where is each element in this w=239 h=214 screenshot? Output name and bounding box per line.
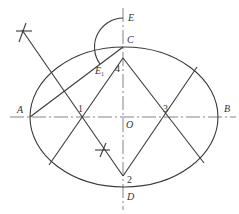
ellipse-construction-diagram: E C E1 4 A 1 O 3 B 2 D: [0, 0, 239, 214]
label-point-2: 2: [127, 175, 132, 185]
label-E1: E1: [95, 66, 104, 77]
label-A: A: [17, 105, 23, 115]
line-2-3: [123, 67, 197, 176]
label-C: C: [127, 35, 134, 45]
cross-mark-top: [19, 23, 26, 42]
label-point-4: 4: [115, 64, 120, 74]
diagram-drawing: [0, 0, 239, 214]
label-E: E: [128, 13, 134, 23]
chord-AC: [30, 47, 123, 117]
label-O: O: [126, 120, 133, 130]
label-B: B: [224, 104, 230, 114]
label-point-3: 3: [163, 104, 168, 114]
perpendicular-bisector: [22, 30, 123, 176]
line-4-1: [49, 58, 123, 165]
label-D: D: [127, 192, 134, 202]
label-E1-sub: 1: [101, 71, 104, 77]
label-point-1: 1: [78, 104, 83, 114]
